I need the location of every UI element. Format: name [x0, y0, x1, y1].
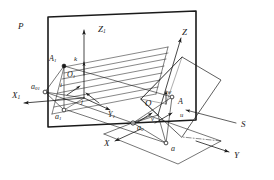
- surface-s-label: S: [241, 120, 246, 129]
- vector-k-label: k: [74, 56, 77, 63]
- axis-z1-sub: 1: [103, 28, 106, 34]
- axis-x-label: X: [104, 139, 110, 148]
- figure-canvas: P Z1 X1 Y1 O1 A1 a1 a01 i j k Z X Y O A …: [0, 0, 274, 180]
- point-a1-sub: 1: [59, 116, 61, 121]
- point-a-label: a: [171, 145, 175, 153]
- point-A-label: A: [178, 98, 183, 106]
- axis-x1-label: X1: [12, 91, 20, 101]
- origin-o-label: O: [145, 99, 152, 108]
- marker-A: [170, 95, 174, 99]
- origin-o1-sub: 1: [73, 74, 75, 79]
- marker-a1: [62, 108, 66, 112]
- vector-v-label: v: [151, 116, 154, 123]
- axis-y1-sub: 1: [112, 114, 114, 119]
- vector-j-label: j: [81, 99, 83, 106]
- plane-p-label: P: [18, 22, 24, 31]
- plane-p-border: [48, 11, 196, 127]
- vector-u-label: u: [180, 112, 183, 119]
- point-A1-sub: 1: [54, 58, 56, 63]
- origin-o1-label: O1: [67, 71, 75, 80]
- point-a01-sub: 01: [35, 86, 40, 91]
- axis-y-label: Y: [234, 151, 239, 160]
- marker-A1: [62, 64, 66, 68]
- axis-z1-label: Z1: [98, 25, 106, 35]
- axis-z-label: Z: [182, 28, 187, 37]
- point-a0-label: a0: [137, 124, 143, 133]
- axis-y1-label: Y1: [108, 111, 115, 120]
- vector-i-label: i: [60, 82, 62, 89]
- marker-a: [164, 141, 168, 145]
- marker-a01: [43, 90, 47, 94]
- vector-w-label: w: [167, 89, 171, 96]
- point-a01-label: a01: [31, 83, 40, 92]
- axis-x1-sub: 1: [18, 94, 21, 100]
- axis-y-line: [196, 141, 229, 152]
- marker-a0-center: [132, 122, 134, 124]
- point-a0-sub: 0: [141, 127, 143, 132]
- diagram-svg: [0, 0, 274, 180]
- point-a1-label: a1: [55, 113, 61, 122]
- point-A1-label: A1: [49, 55, 56, 64]
